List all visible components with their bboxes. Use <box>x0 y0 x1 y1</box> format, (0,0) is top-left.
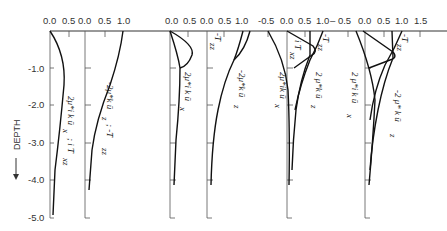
svg-text:0.5: 0.5 <box>62 15 75 26</box>
svg-text:zz: zz <box>395 43 405 52</box>
svg-text:-2 μ* k ū: -2 μ* k ū <box>393 90 403 122</box>
svg-text:2μ*i k ū: 2μ*i k ū <box>183 72 193 102</box>
curve-p2 <box>89 31 123 190</box>
svg-text:2 μ*i k ū: 2 μ*i k ū <box>350 72 360 104</box>
svg-text:0.5: 0.5 <box>98 15 111 26</box>
svg-text:-2μ*k ū: -2μ*k ū <box>105 82 115 110</box>
svg-text:2μ*ik ū: 2μ*ik ū <box>278 72 288 99</box>
svg-text:; i T̄: ; i T̄ <box>66 138 76 154</box>
svg-text:1.5: 1.5 <box>414 15 427 26</box>
svg-text:– 0.5: – 0.5 <box>330 15 351 26</box>
depth-profile-figure: -1.0 -2.0 -3.0 -4.0 -5.0 DEPTH 0.0 0.5 2… <box>0 0 447 231</box>
svg-text:0.5: 0.5 <box>218 15 231 26</box>
svg-text:1.0: 1.0 <box>395 15 408 26</box>
panel-1: 0.0 0.5 2μ*i k ū x ; i T̄ xz <box>43 15 76 218</box>
svg-text:zz: zz <box>316 43 326 52</box>
svg-text:x: x <box>273 103 283 108</box>
svg-text:x: x <box>178 106 188 111</box>
panel-6: – 0.5 0.0 0.5 1.0 1.5 -T̄ zz 2 μ*i k ū x… <box>330 15 427 218</box>
svg-text:0.0: 0.0 <box>43 15 56 26</box>
svg-text:xz: xz <box>61 157 71 166</box>
svg-text:z: z <box>388 133 398 138</box>
svg-text:xz: xz <box>288 51 298 60</box>
curve-p4-uz <box>211 31 250 185</box>
svg-text:zz: zz <box>208 42 218 51</box>
svg-text:-T̄: -T̄ <box>213 33 223 42</box>
y-tick-label: -2.0 <box>28 99 44 110</box>
y-axis: -1.0 -2.0 -3.0 -4.0 -5.0 DEPTH <box>12 63 44 223</box>
svg-text:0.5: 0.5 <box>183 15 196 26</box>
panel-3: 0.0 0.5 2μ*i k ū x <box>165 15 196 218</box>
svg-text:0.0: 0.0 <box>78 15 91 26</box>
depth-arrowhead-icon <box>13 174 19 180</box>
svg-text:0.0: 0.0 <box>280 15 293 26</box>
svg-text:0.5: 0.5 <box>377 15 390 26</box>
y-tick-label: -1.0 <box>28 63 44 74</box>
y-tick-label: -5.0 <box>28 212 44 223</box>
curve-p3-ixz <box>170 31 192 68</box>
svg-text:0.0: 0.0 <box>165 15 178 26</box>
panel-5: -0.5 0.0 0.5 1.0 i T̄ xz -T̄ zz 2μ*ik ū … <box>258 15 331 218</box>
curve-p1 <box>50 31 64 215</box>
y-tick-label: -3.0 <box>28 137 44 148</box>
svg-text:1.0: 1.0 <box>316 15 329 26</box>
y-tick-label: -4.0 <box>28 174 44 185</box>
svg-text:2 μ*k ū: 2 μ*k ū <box>314 72 324 99</box>
svg-text:1.0: 1.0 <box>235 15 248 26</box>
svg-text:x: x <box>61 128 71 133</box>
panel-2: 0.0 0.5 1.0 -2μ*k ū z ; -T̄ zz <box>78 15 130 218</box>
svg-text:-T̄: -T̄ <box>321 34 331 43</box>
svg-text:1.0: 1.0 <box>117 15 130 26</box>
svg-text:0.0: 0.0 <box>200 15 213 26</box>
svg-text:z: z <box>232 104 242 109</box>
svg-text:z: z <box>309 104 319 109</box>
svg-text:2μ*i k ū: 2μ*i k ū <box>66 96 76 126</box>
svg-text:-T̄: -T̄ <box>400 34 410 43</box>
svg-text:-0.5: -0.5 <box>258 15 274 26</box>
svg-text:-2μ*k ū: -2μ*k ū <box>237 70 247 98</box>
panel-4: 0.0 0.5 1.0 -T̄ zz -2μ*k ū z <box>200 15 250 218</box>
svg-text:; -T̄: ; -T̄ <box>105 124 115 138</box>
curve-p5-a <box>268 31 289 185</box>
svg-text:x: x <box>345 113 355 118</box>
svg-text:z: z <box>100 116 110 121</box>
svg-text:i T̄: i T̄ <box>293 40 303 51</box>
svg-text:zz: zz <box>100 147 110 156</box>
svg-text:0.0: 0.0 <box>358 15 371 26</box>
svg-text:0.5: 0.5 <box>298 15 311 26</box>
y-axis-label: DEPTH <box>12 119 22 150</box>
